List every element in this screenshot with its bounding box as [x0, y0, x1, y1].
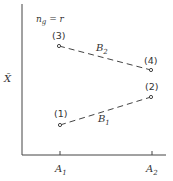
point-label-3: (3)	[52, 30, 65, 41]
line-label-b1: B1	[97, 113, 110, 127]
point-label-1: (1)	[54, 108, 67, 119]
point-label-2: (2)	[145, 81, 158, 92]
point-2	[149, 95, 152, 98]
interaction-diagram: X̄ A1 A2 ng = r B1 B2 (1) (2) (3) (4)	[0, 0, 173, 181]
x-tick-label-a2: A2	[145, 163, 158, 177]
point-4	[149, 68, 152, 71]
annotation-ng-equals-r: ng = r	[36, 14, 65, 26]
point-3	[57, 44, 60, 47]
point-1	[58, 123, 61, 126]
line-label-b2: B2	[95, 42, 108, 56]
point-label-4: (4)	[144, 55, 157, 66]
y-axis-label: X̄	[3, 73, 12, 84]
x-tick-label-a1: A1	[54, 163, 67, 177]
